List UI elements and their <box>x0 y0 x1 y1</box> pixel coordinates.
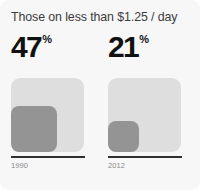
stat-unit: % <box>139 34 148 45</box>
square-chart-2012 <box>108 78 181 152</box>
year-label: 2012 <box>108 161 125 171</box>
square-chart-1990 <box>11 78 84 152</box>
stat-2012: 21 % <box>108 32 149 62</box>
baseline-rule <box>11 156 85 158</box>
square-inner-value <box>108 121 139 152</box>
stat-panel-2012: 21 % 2012 <box>108 30 192 190</box>
baseline-rule <box>108 156 182 158</box>
square-inner-value <box>11 106 57 152</box>
infographic-card: Those on less than $1.25 / day 47 % 1990… <box>0 0 200 190</box>
panel-group: 47 % 1990 21 % 2012 <box>0 30 200 190</box>
stat-unit: % <box>42 34 51 45</box>
stat-value: 21 <box>108 32 138 62</box>
page-title: Those on less than $1.25 / day <box>11 9 193 25</box>
stat-value: 47 <box>11 32 41 62</box>
stat-1990: 47 % <box>11 32 52 62</box>
year-label: 1990 <box>11 161 28 171</box>
stat-panel-1990: 47 % 1990 <box>11 30 95 190</box>
